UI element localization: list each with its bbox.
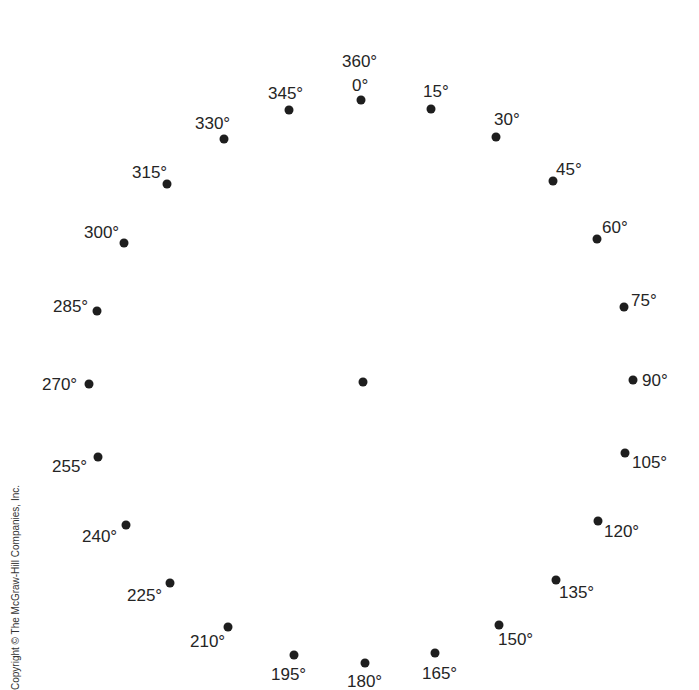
degree-dot	[290, 651, 299, 660]
degree-label: 15°	[423, 83, 449, 100]
degree-dot	[94, 453, 103, 462]
degree-dot	[492, 133, 501, 142]
degree-label: 315°	[132, 164, 167, 181]
center-dot	[359, 378, 368, 387]
degree-label-360: 360°	[342, 53, 377, 70]
degree-dot	[620, 303, 629, 312]
degree-dot	[122, 521, 131, 530]
degree-label: 330°	[195, 115, 230, 132]
degree-label: 255°	[52, 458, 87, 475]
degree-label: 75°	[631, 292, 657, 309]
degree-label: 225°	[127, 587, 162, 604]
degree-label: 150°	[498, 631, 533, 648]
degree-label: 285°	[53, 298, 88, 315]
degree-label: 90°	[642, 372, 668, 389]
degree-label: 270°	[42, 376, 77, 393]
degree-label: 60°	[602, 219, 628, 236]
degree-dot	[220, 135, 229, 144]
degree-dot	[361, 659, 370, 668]
degree-label: 105°	[632, 454, 667, 471]
degree-dot	[621, 449, 630, 458]
degree-dot	[224, 623, 233, 632]
degree-label: 135°	[559, 584, 594, 601]
degree-dot	[166, 579, 175, 588]
degree-dot	[431, 649, 440, 658]
degree-dot	[427, 105, 436, 114]
degree-dot	[495, 621, 504, 630]
degree-label: 45°	[556, 161, 582, 178]
degree-label: 120°	[604, 523, 639, 540]
degree-label: 345°	[268, 85, 303, 102]
degree-label: 300°	[84, 224, 119, 241]
degree-dot	[594, 517, 603, 526]
degree-dot	[629, 376, 638, 385]
degree-dot	[357, 96, 366, 105]
degree-label: 0°	[352, 77, 368, 94]
degree-dot	[593, 235, 602, 244]
degree-label: 30°	[494, 111, 520, 128]
copyright-notice: Copyright © The McGraw-Hill Companies, I…	[10, 485, 21, 690]
degree-label: 210°	[190, 633, 225, 650]
degree-dot	[85, 380, 94, 389]
degree-label: 195°	[271, 666, 306, 683]
degree-label: 180°	[347, 673, 382, 690]
degree-dot	[285, 106, 294, 115]
degree-label: 165°	[422, 665, 457, 682]
degree-dot	[120, 239, 129, 248]
degree-label: 240°	[82, 528, 117, 545]
degree-dot	[93, 307, 102, 316]
